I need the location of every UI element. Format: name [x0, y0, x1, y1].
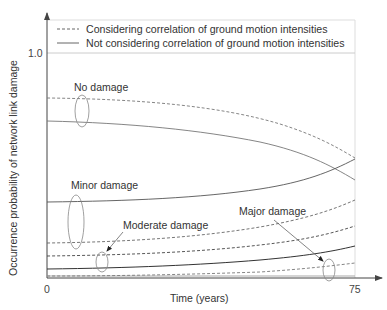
- annotations: No damage Minor damage Moderate damage M…: [68, 81, 335, 281]
- annotation-no-damage: No damage: [74, 81, 128, 93]
- x-axis-label: Time (years): [170, 292, 229, 304]
- ellipse-minor-damage: [68, 195, 84, 249]
- line-no-damage-dashed: [47, 98, 355, 158]
- y-axis-label: Occurrence probability of network link d…: [7, 60, 19, 276]
- arrow-major-damage: [274, 220, 323, 261]
- x-tick-75: 75: [349, 283, 361, 295]
- legend-dashed-label: Considering correlation of ground motion…: [86, 23, 327, 35]
- annotation-major-damage: Major damage: [239, 205, 306, 217]
- chart-canvas: Considering correlation of ground motion…: [0, 0, 387, 310]
- legend-solid-label: Not considering correlation of ground mo…: [86, 37, 345, 49]
- annotation-moderate-damage: Moderate damage: [123, 219, 208, 231]
- y-tick-1: 1.0: [28, 47, 43, 59]
- x-tick-0: 0: [44, 283, 50, 295]
- annotation-minor-damage: Minor damage: [71, 179, 138, 191]
- plot-frame: [47, 20, 355, 278]
- line-no-damage-solid: [47, 121, 355, 180]
- ellipse-moderate-damage: [96, 252, 108, 272]
- legend: Considering correlation of ground motion…: [57, 23, 345, 49]
- line-major-damage-dashed: [47, 263, 355, 276]
